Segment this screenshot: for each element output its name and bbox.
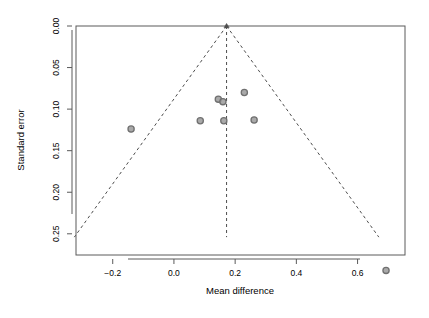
figure-background — [0, 0, 429, 318]
funnel-plot-svg: 0.000.050.100.150.200.25 −0.20.00.20.40.… — [0, 0, 429, 318]
y-tick-label: 0.05 — [51, 59, 61, 76]
funnel-plot-figure: 0.000.050.100.150.200.25 −0.20.00.20.40.… — [0, 0, 429, 318]
x-tick-label: −0.2 — [104, 268, 121, 278]
y-tick-label: 0.15 — [51, 142, 61, 159]
data-point — [251, 117, 257, 123]
x-tick-label: 0.4 — [290, 268, 302, 278]
y-tick-label: 0.20 — [51, 184, 61, 201]
data-point — [220, 99, 226, 105]
y-tick-label: 0.25 — [51, 225, 61, 242]
x-tick-label: 0.2 — [229, 268, 241, 278]
x-axis-title: Mean difference — [206, 285, 274, 296]
data-point — [241, 89, 247, 95]
y-tick-label: 0.10 — [51, 101, 61, 118]
x-tick-label: 0.6 — [352, 268, 364, 278]
data-point — [383, 267, 389, 273]
data-point — [128, 126, 134, 132]
x-tick-label: 0.0 — [168, 268, 180, 278]
y-tick-label: 0.00 — [51, 17, 61, 34]
data-point — [221, 118, 227, 124]
data-point — [197, 118, 203, 124]
y-axis-title: Standard error — [15, 109, 26, 170]
